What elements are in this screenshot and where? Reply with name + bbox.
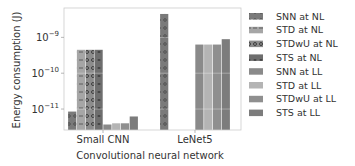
bar-hatch [77, 50, 85, 130]
bar [103, 125, 111, 130]
legend-label: STD at LL [276, 80, 322, 91]
y-tick-label-base: 10 [36, 32, 49, 43]
y-axis-ticks: 10−910−1010−11 [31, 30, 64, 115]
legend-label: STD at NL [276, 24, 324, 35]
y-tick-label-base: 10 [31, 104, 44, 115]
legend-swatch-hatch [249, 27, 263, 34]
legend-item: STD at LL [249, 80, 322, 91]
bar [112, 123, 120, 130]
legend-item: STS at NL [249, 52, 323, 63]
legend-item: STS at LL [249, 107, 321, 118]
plot-area [64, 8, 241, 130]
y-tick-label-exponent: −10 [44, 66, 59, 74]
bar-hatch [86, 50, 94, 130]
legend-swatch [249, 110, 263, 117]
y-tick-label-exponent: −9 [49, 30, 59, 38]
legend-item: STDwU at LL [249, 93, 337, 104]
x-axis-ticks: Small CNNLeNet5 [77, 130, 213, 145]
legend-label: SNN at NL [276, 11, 325, 22]
y-tick-label: 10−10 [31, 66, 59, 79]
y-tick-label-exponent: −11 [44, 102, 59, 110]
legend-item: STDwU at NL [249, 38, 339, 49]
x-tick-label: Small CNN [77, 134, 130, 145]
legend-label: STDwU at NL [276, 38, 339, 49]
legend-label: STS at LL [276, 107, 321, 118]
energy-consumption-chart: 10−910−1010−11 Small CNNLeNet5 Energy co… [0, 0, 355, 166]
y-axis-label: Energy consumption (J) [11, 11, 22, 128]
y-tick-label: 10−9 [36, 30, 59, 43]
bar [204, 45, 212, 130]
y-tick-label-base: 10 [31, 68, 44, 79]
bar-hatch [160, 14, 168, 130]
bar-hatch [95, 50, 103, 130]
legend-swatch [249, 68, 263, 75]
legend-label: STS at NL [276, 52, 323, 63]
legend-label: SNN at LL [276, 66, 323, 77]
legend-swatch-hatch [249, 54, 263, 61]
bar-hatch [68, 112, 76, 130]
bar [195, 45, 203, 130]
legend-swatch [249, 82, 263, 89]
legend-item: SNN at LL [249, 66, 323, 77]
legend-swatch-hatch [249, 13, 263, 20]
bar [213, 45, 221, 130]
x-tick-label: LeNet5 [177, 134, 212, 145]
legend-label: STDwU at LL [276, 93, 337, 104]
bar [121, 123, 129, 130]
bar [130, 116, 138, 130]
x-axis-label: Convolutional neural network [76, 150, 224, 161]
legend: SNN at NLSTD at NLSTDwU at NLSTS at NLSN… [249, 11, 339, 119]
legend-item: SNN at NL [249, 11, 325, 22]
bar [222, 39, 230, 130]
legend-swatch [249, 96, 263, 103]
legend-swatch-hatch [249, 41, 263, 48]
y-tick-label: 10−11 [31, 102, 59, 115]
legend-item: STD at NL [249, 24, 324, 35]
